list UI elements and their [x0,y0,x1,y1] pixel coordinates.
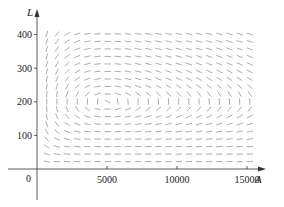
slope-segment [46,38,48,44]
slope-segment [206,63,212,65]
slope-segment [237,40,243,42]
slope-segment [176,63,182,65]
slope-segment [237,131,243,132]
slope-segment [75,106,79,111]
slope-segment [64,130,70,132]
slope-segment [135,48,141,49]
slope-segment [247,131,253,132]
x-tick-label: 5000 [97,174,117,185]
slope-segment [176,48,182,50]
slope-segment [206,115,212,118]
slope-segment [117,98,118,104]
slope-segment [65,84,68,90]
slope-segment [165,131,171,132]
slope-segment [197,91,201,96]
slope-segment [186,139,192,140]
slope-segment [64,122,69,125]
slope-segment [94,64,100,65]
slope-segment [145,123,151,124]
slope-segment [166,107,171,111]
slope-segment [206,77,212,80]
slope-segment [227,115,233,118]
slope-segment [176,107,181,112]
slope-segment [44,145,49,149]
slope-segment [145,78,151,80]
slope-segment [135,56,141,57]
slope-segment [55,46,59,51]
slope-segment [217,115,223,118]
slope-segment [237,33,243,35]
slope-segment [56,106,57,112]
slope-segment [247,33,253,35]
slope-segment [206,131,212,132]
slope-segment [125,34,131,35]
slope-segment [237,84,242,88]
slope-segment [46,61,48,67]
slope-segment [115,71,121,72]
slope-segment [135,33,141,34]
slope-segment [186,85,191,89]
slope-segment [55,39,59,44]
slope-segment [226,123,232,125]
slope-segment [135,107,140,110]
slope-segment [155,78,161,80]
slope-segment [44,153,50,155]
slope-segment [94,86,100,87]
slope-segment [55,69,58,75]
slope-segment [238,91,242,96]
slope-segment [44,161,50,162]
slope-segment [247,146,253,147]
slope-segment [247,55,253,57]
slope-segment [155,139,161,140]
slope-segment [216,55,222,57]
slope-segment [217,77,223,80]
slope-segment [135,71,141,72]
slope-segment [145,56,151,57]
slope-segment [84,63,90,65]
slope-segment [196,70,202,73]
slope-segment [165,33,171,34]
slope-segment [135,78,141,80]
slope-segment [135,131,141,132]
slope-segment [56,76,58,82]
slope-field-chart: 50001000015000 100200300400 A L 0 [0,0,284,207]
slope-segment [84,78,90,80]
slope-segment [247,139,253,140]
slope-segment [85,92,90,96]
slope-segment [125,56,131,57]
slope-segment [135,116,141,118]
slope-segment [247,70,253,73]
slope-segment [237,48,243,50]
slope-segment [45,137,49,142]
slope-segment [115,116,121,117]
slope-segment [156,107,161,111]
slope-segment [46,46,48,52]
slope-segment [216,63,222,65]
slope-segment [74,63,80,66]
x-tick-label: 10000 [165,174,190,185]
y-tick-label: 200 [17,96,32,107]
slope-segment [146,107,151,111]
slope-segment [84,116,90,118]
slope-segment [145,48,151,49]
slope-segment [206,139,212,140]
slope-segment [76,91,79,97]
slope-segment [186,55,192,57]
slope-segment [84,131,90,132]
slope-segment [136,92,141,96]
slope-segment [247,77,252,80]
y-tick-label: 400 [17,29,32,40]
slope-segment [74,146,80,147]
slope-segment [94,116,100,117]
slope-segment [238,107,242,112]
slope-segment [125,124,131,125]
slope-segment [156,92,161,96]
slope-segment [95,93,101,95]
slope-segment [207,85,212,89]
slope-segment [247,40,253,42]
slope-segment [206,55,212,57]
slope-segment [166,56,172,58]
slope-segment [54,154,60,155]
slope-segment [85,85,91,88]
slope-segment [237,115,243,118]
